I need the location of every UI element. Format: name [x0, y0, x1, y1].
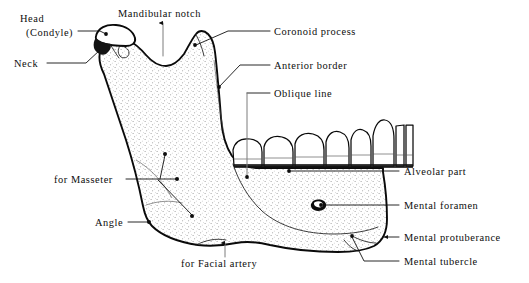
- leader-anterior-border: [219, 65, 270, 87]
- label-anterior-border: Anterior border: [274, 60, 347, 71]
- teeth-row: [233, 120, 413, 168]
- tooth-incisor-central: [406, 125, 413, 166]
- label-mental-foramen: Mental foramen: [404, 200, 479, 211]
- tooth-premolar-1: [351, 129, 371, 166]
- dot-angle: [147, 220, 151, 224]
- label-oblique-line: Oblique line: [274, 88, 332, 99]
- label-mental-tubercle: Mental tubercle: [404, 256, 478, 267]
- tooth-incisor-lateral: [396, 125, 404, 166]
- label-for-facial-artery: for Facial artery: [181, 258, 258, 269]
- dot-coronoid-process: [193, 43, 197, 47]
- dot-mental-foramen: [319, 203, 323, 207]
- label-mandibular-notch: Mandibular notch: [118, 8, 201, 19]
- tooth-molar-2: [264, 136, 293, 166]
- leader-neck: [47, 50, 100, 63]
- mandible-diagram: Head (Condyle) Neck Mandibular notch Cor…: [0, 0, 529, 283]
- dot-oblique-line: [245, 175, 249, 179]
- tooth-molar-1: [295, 133, 324, 166]
- gum-line-shadow: [234, 164, 413, 168]
- label-neck: Neck: [14, 58, 38, 69]
- dot-masseter-2: [175, 177, 179, 181]
- mandible-bone: [94, 25, 413, 252]
- tooth-canine: [373, 120, 394, 166]
- label-head: Head: [20, 13, 44, 24]
- mandible-figure: Head (Condyle) Neck Mandibular notch Cor…: [0, 0, 529, 283]
- dot-masseter-3: [190, 214, 194, 218]
- dot-alveolar-part: [287, 169, 291, 173]
- label-angle: Angle: [95, 217, 123, 228]
- dot-head-condyle: [104, 32, 108, 36]
- label-for-masseter: for Masseter: [54, 174, 113, 185]
- tooth-premolar-2: [326, 131, 349, 166]
- label-coronoid-process: Coronoid process: [274, 26, 356, 37]
- label-mental-protuberance: Mental protuberance: [404, 232, 501, 243]
- label-condyle: (Condyle): [26, 27, 73, 39]
- dot-mental-tubercle: [350, 234, 354, 238]
- dot-anterior-border: [217, 85, 221, 89]
- label-alveolar-part: Alveolar part: [404, 166, 466, 177]
- dot-masseter-1: [163, 152, 167, 156]
